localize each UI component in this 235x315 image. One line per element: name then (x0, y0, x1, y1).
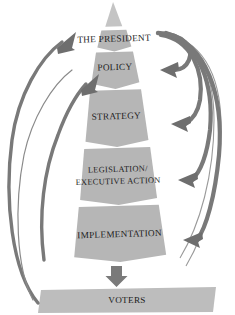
implementation-to-voters-arrow (106, 266, 128, 287)
president-to-legislation-arrow (164, 34, 211, 188)
pyramid-stack: THE PRESIDENT POLICY STRATEGY LEGISLATIO… (67, 1, 166, 263)
layer-label-legislation-line1: LEGISLATION/ (88, 164, 148, 175)
layer-label-strategy: STRATEGY (91, 110, 141, 121)
voters-to-president-arrow (9, 32, 76, 303)
layer-label-voters: VOTERS (108, 295, 146, 305)
layer-label-policy: POLICY (97, 62, 132, 73)
layer-shape-voters-group: VOTERS (38, 287, 216, 313)
policy-pyramid-diagram: THE PRESIDENT POLICY STRATEGY LEGISLATIO… (0, 0, 235, 315)
layer-label-president: THE PRESIDENT (77, 33, 151, 45)
pyramid-canvas: THE PRESIDENT POLICY STRATEGY LEGISLATIO… (0, 0, 235, 315)
pyramid-apex (105, 2, 123, 27)
